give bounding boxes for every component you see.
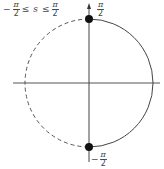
upper-bound-fraction: π2 xyxy=(52,1,59,18)
minus-sign: − xyxy=(3,5,11,14)
bottom-point-label: −π2 xyxy=(91,151,107,168)
top-point xyxy=(85,15,93,23)
unit-circle-diagram xyxy=(0,0,164,169)
variable-s: s xyxy=(33,5,38,14)
bottom-point xyxy=(85,143,93,151)
range-label: −π2≤s≤π2 xyxy=(1,1,59,18)
y-axis-arrow-icon xyxy=(87,3,91,9)
top-point-label: π2 xyxy=(97,1,104,18)
leq-sign-2: ≤ xyxy=(42,5,50,14)
leq-sign: ≤ xyxy=(22,5,30,14)
lower-bound-fraction: π2 xyxy=(13,1,20,18)
